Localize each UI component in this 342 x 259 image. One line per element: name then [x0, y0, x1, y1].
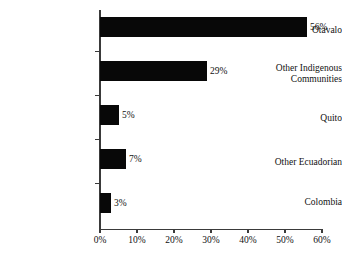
x-axis-tick [210, 229, 212, 233]
bar-value-other-ecuadorian: 7% [129, 149, 142, 169]
y-axis-tick [95, 183, 99, 185]
bar-other-ecuadorian [100, 149, 126, 169]
x-tick-label: 10% [117, 234, 157, 246]
y-axis-tick [95, 95, 99, 97]
bar-value-colombia: 3% [114, 193, 127, 213]
bar-chart: Otavalo Other Indigenous Communities Qui… [0, 0, 342, 259]
x-tick-label: 60% [302, 234, 342, 246]
x-axis-tick [247, 229, 249, 233]
bar-quito [100, 105, 119, 125]
x-tick-label: 50% [265, 234, 305, 246]
bar-value-other-indigenous-communities: 29% [210, 61, 227, 81]
y-axis-tick [95, 139, 99, 141]
bar-value-otavalo: 56% [310, 17, 327, 37]
x-tick-label: 30% [191, 234, 231, 246]
bar-value-quito: 5% [122, 105, 135, 125]
category-label-other-indigenous-communities: Other Indigenous Communities [246, 63, 342, 85]
category-label-quito: Quito [246, 113, 342, 124]
x-axis-tick [99, 229, 101, 233]
category-label-other-ecuadorian: Other Ecuadorian [246, 157, 342, 168]
bar-otavalo [100, 17, 307, 37]
x-tick-label: 40% [228, 234, 268, 246]
bar-colombia [100, 193, 111, 213]
category-label-colombia: Colombia [246, 197, 342, 208]
x-tick-label: 0% [80, 234, 120, 246]
x-axis-tick [136, 229, 138, 233]
x-tick-label: 20% [154, 234, 194, 246]
x-axis-tick [321, 229, 323, 233]
y-axis-tick [95, 51, 99, 53]
x-axis-tick [284, 229, 286, 233]
x-axis-tick [173, 229, 175, 233]
bar-other-indigenous-communities [100, 61, 207, 81]
